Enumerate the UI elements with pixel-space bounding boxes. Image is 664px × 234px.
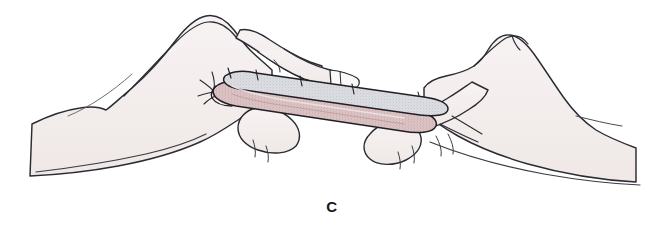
panel-label: C	[0, 198, 664, 216]
figure-panel: C	[0, 0, 664, 234]
